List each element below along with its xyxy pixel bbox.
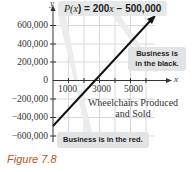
- y-tick-label: −400,000: [0, 112, 48, 122]
- profit-chart: y x P(x) = 200x − 500,000 600,000 400,00…: [0, 0, 193, 150]
- x-tick-label: 3000: [92, 84, 111, 94]
- y-tick-label: 0: [0, 75, 48, 85]
- black-pointer: [112, 15, 142, 48]
- equation-mid: ) = 200: [78, 3, 109, 14]
- y-tick-label: −600,000: [0, 131, 48, 141]
- x-tick-label: 5000: [124, 84, 143, 94]
- figure-caption: Figure 7.8: [7, 153, 57, 165]
- x-tick-label: 1000: [58, 84, 77, 94]
- x-axis-arrow-icon: [166, 78, 172, 83]
- y-tick-label: 200,000: [0, 57, 48, 67]
- x-axis-title: Wheelchairs Produced and Sold: [78, 97, 188, 119]
- y-tick-label: −200,000: [0, 94, 48, 104]
- y-axis-name: y: [50, 0, 54, 8]
- red-callout: Business is in the red.: [57, 132, 149, 148]
- y-tick-label: 600,000: [0, 20, 48, 30]
- x-axis-title-line1: Wheelchairs Produced: [78, 97, 188, 108]
- x-axis-name: x: [174, 74, 178, 84]
- x-axis-title-line2: and Sold: [78, 108, 188, 119]
- y-tick-label: 400,000: [0, 39, 48, 49]
- equation-suffix: − 500,000: [114, 3, 162, 14]
- equation-label: P(x) = 200x − 500,000: [58, 1, 167, 16]
- black-callout: Business is in the black.: [128, 47, 186, 71]
